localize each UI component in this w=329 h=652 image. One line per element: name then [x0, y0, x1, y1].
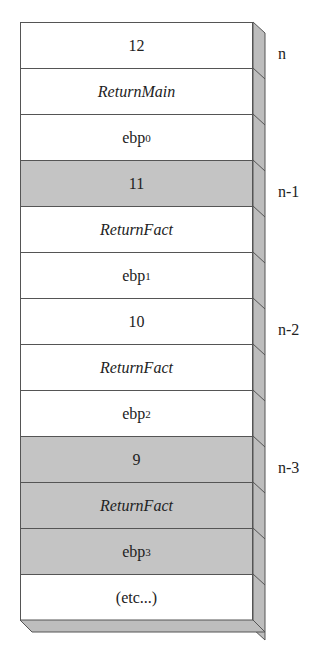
frame-label-n-3: n-3 — [278, 459, 299, 477]
frame-label-n-2: n-2 — [278, 321, 299, 339]
frame-label-n-1: n-1 — [278, 183, 299, 201]
frame-label-n: n — [278, 45, 286, 63]
